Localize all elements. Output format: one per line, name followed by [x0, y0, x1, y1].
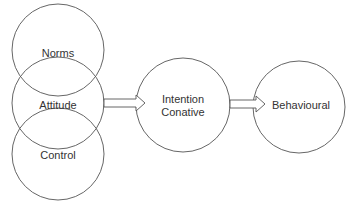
conative-label: Conative [161, 105, 204, 119]
intention-label: Intention [162, 92, 204, 106]
control-label: Control [40, 148, 75, 162]
norms-label: Norms [42, 46, 74, 60]
attitude-label: Attitude [39, 98, 76, 112]
arrow-attitude-to-intention [104, 95, 145, 111]
arrow-intention-to-behavioural [230, 96, 265, 112]
behavioural-label: Behavioural [272, 98, 330, 112]
